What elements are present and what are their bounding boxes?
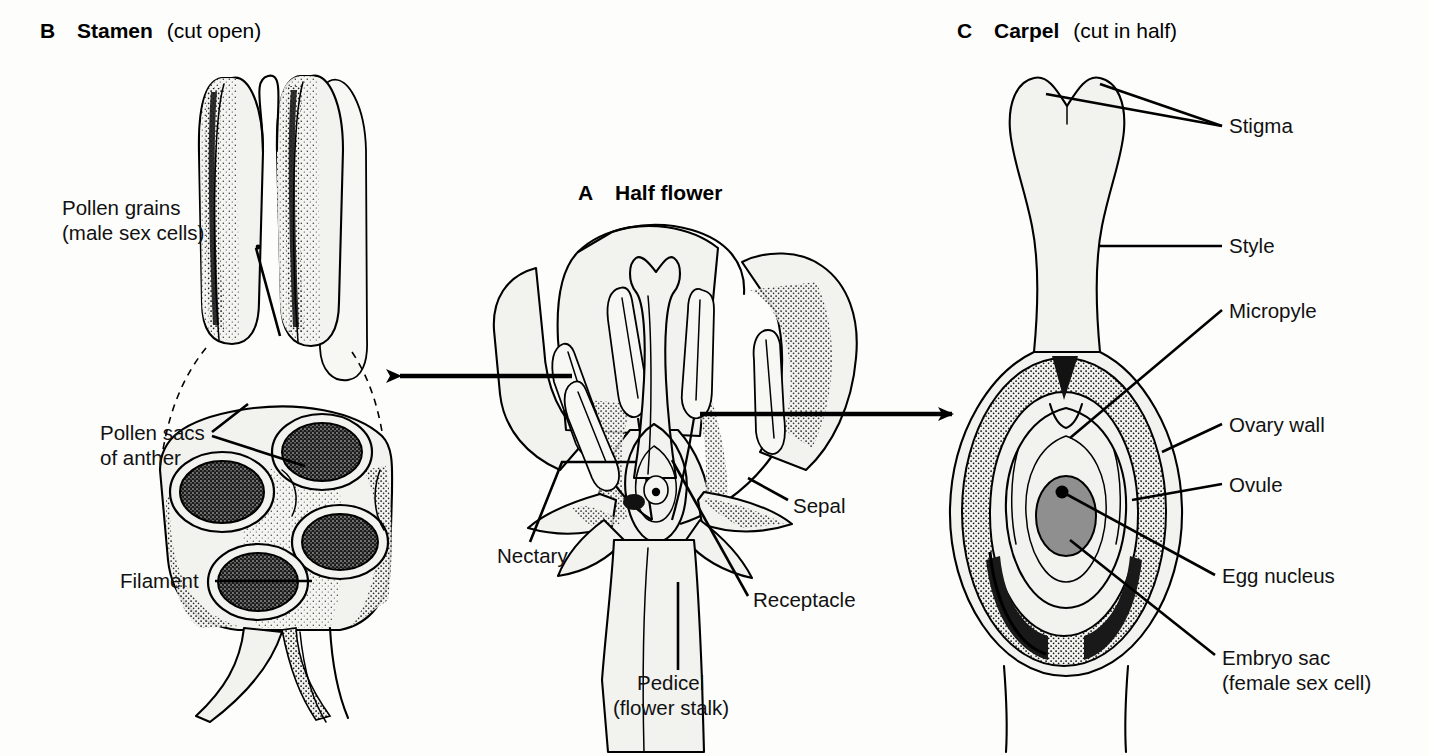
leader-sepal (748, 478, 788, 500)
filament-right-edge (330, 628, 348, 718)
filament-left-edge (196, 628, 282, 722)
label-embryo-sac-line2: (female sex cell) (1222, 671, 1371, 694)
anther-top-cleft (259, 76, 278, 152)
half-flower-panel-letter: A (578, 181, 593, 204)
label-sepal: Sepal (793, 494, 845, 517)
label-receptacle: Receptacle (753, 588, 856, 611)
label-pollen-grains-line2: (male sex cells) (62, 221, 204, 244)
label-filament: Filament (120, 569, 199, 592)
label-stigma: Stigma (1229, 114, 1293, 137)
label-egg-nucleus: Egg nucleus (1222, 564, 1335, 587)
leader-dot-pollen-grains (256, 245, 261, 250)
nectary-blob (623, 494, 645, 510)
label-pedicel-line1: Pedicel (637, 671, 704, 694)
label-nectary: Nectary (497, 544, 568, 567)
carpel-panel: C Carpel (cut in half) Stigma Style Micr… (950, 19, 1371, 752)
half-flower-panel: A Half flower Sepal Nectary Receptacle P… (494, 181, 857, 752)
filament-shading (282, 628, 330, 720)
stamen-panel-title-rest: (cut open) (167, 19, 262, 42)
label-style: Style (1229, 234, 1275, 257)
label-ovule: Ovule (1229, 473, 1283, 496)
label-pollen-sacs-line2: of anther (100, 446, 181, 469)
flower-structure-figure: B Stamen (cut open) Pollen grains (male … (0, 0, 1429, 756)
label-pedicel-line2: (flower stalk) (613, 696, 729, 719)
pedicel-stalk (602, 540, 704, 752)
label-pollen-sacs-line1: Pollen sacs (100, 421, 205, 444)
leader-ovary-wall (1162, 424, 1222, 452)
label-embryo-sac-line1: Embryo sac (1222, 646, 1330, 669)
label-pollen-grains-line1: Pollen grains (62, 196, 181, 219)
stamen-panel-letter: B (40, 19, 55, 42)
ovary-base-left (1004, 666, 1007, 752)
ovary-base-right (1125, 666, 1128, 752)
carpel-panel-letter: C (957, 19, 972, 42)
half-flower-panel-title: A Half flower (578, 181, 722, 204)
stamen-panel-title-bold: Stamen (77, 19, 153, 42)
carpel-panel-title: C Carpel (cut in half) (957, 19, 1177, 42)
carpel-panel-title-rest: (cut in half) (1073, 19, 1177, 42)
carpel-panel-title-bold: Carpel (994, 19, 1059, 42)
half-flower-panel-title-bold: Half flower (615, 181, 722, 204)
label-ovary-wall: Ovary wall (1229, 413, 1325, 436)
label-micropyle: Micropyle (1229, 299, 1317, 322)
diagram-canvas: B Stamen (cut open) Pollen grains (male … (0, 0, 1429, 756)
egg-nucleus-dot (1056, 486, 1069, 499)
stamen-panel: B Stamen (cut open) Pollen grains (male … (40, 19, 392, 722)
stamen-panel-title: B Stamen (cut open) (40, 19, 261, 42)
